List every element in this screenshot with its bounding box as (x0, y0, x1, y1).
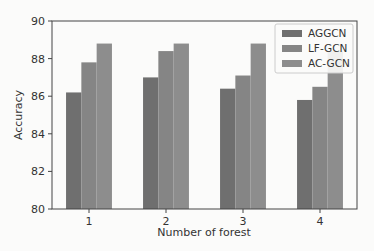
bar-lf-gcn-1 (81, 62, 96, 209)
bar-aggcn-4 (297, 100, 312, 209)
x-tick-label: 4 (317, 215, 324, 228)
y-axis: 808284868890 (31, 15, 52, 216)
bar-lf-gcn-4 (312, 87, 327, 209)
y-tick-label: 90 (31, 15, 45, 28)
bar-ac-gcn-2 (174, 44, 189, 209)
x-tick-label: 1 (86, 215, 93, 228)
legend: AGGCNLF-GCNAC-GCN (275, 24, 353, 73)
y-tick-label: 88 (31, 53, 45, 66)
bar-aggcn-2 (143, 77, 158, 209)
y-axis-label: Accuracy (12, 89, 25, 140)
bar-chart: 808284868890 1234 Number of forest Accur… (0, 0, 374, 251)
bar-lf-gcn-3 (235, 76, 250, 209)
bar-lf-gcn-2 (158, 51, 173, 209)
legend-swatch-lf-gcn (282, 45, 302, 52)
legend-swatch-ac-gcn (282, 60, 302, 67)
legend-label-lf-gcn: LF-GCN (308, 42, 347, 54)
bar-ac-gcn-4 (328, 51, 343, 209)
x-axis-label: Number of forest (157, 226, 251, 239)
bar-aggcn-3 (220, 89, 235, 209)
legend-label-aggcn: AGGCN (308, 27, 346, 39)
y-tick-label: 80 (31, 203, 45, 216)
legend-swatch-aggcn (282, 30, 302, 37)
bar-aggcn-1 (66, 92, 81, 209)
bar-ac-gcn-3 (251, 44, 266, 209)
legend-label-ac-gcn: AC-GCN (308, 57, 350, 69)
y-tick-label: 82 (31, 165, 45, 178)
y-tick-label: 86 (31, 90, 45, 103)
y-tick-label: 84 (31, 128, 45, 141)
bar-ac-gcn-1 (97, 44, 112, 209)
